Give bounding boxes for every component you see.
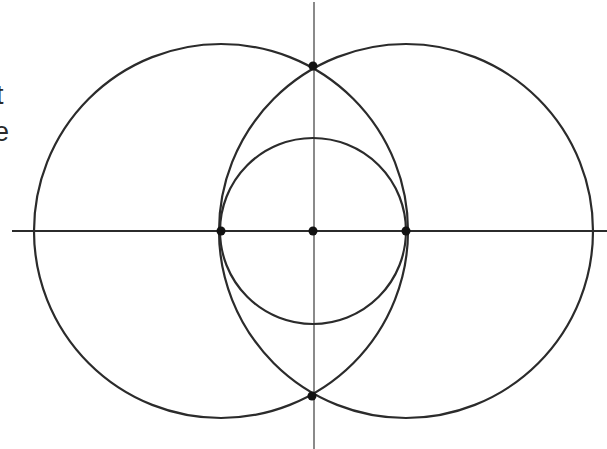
- point-origin: [309, 227, 318, 236]
- point-left-center: [217, 227, 226, 236]
- point-top-intersection: [309, 62, 318, 71]
- point-bottom-intersection: [308, 392, 317, 401]
- geometry-diagram: [0, 0, 607, 449]
- point-right-center: [402, 227, 411, 236]
